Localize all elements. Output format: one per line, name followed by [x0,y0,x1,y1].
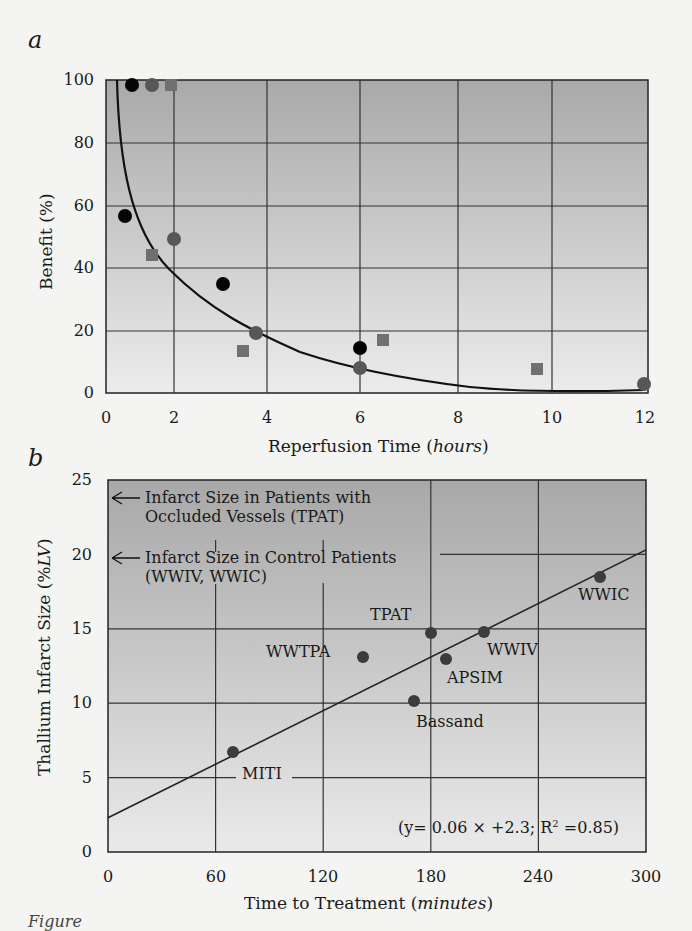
panel-a-ytick: 20 [54,321,94,340]
data-point-tpat [425,627,437,639]
annotation-line: Occluded Vessels (TPAT) [145,507,371,526]
data-point-miti [227,746,239,758]
label-apsim: APSIM [447,668,503,687]
label-tpat: TPAT [370,605,411,624]
panel-b-ylabel: Thallium Infarct Size (%LV) [34,538,54,776]
panel-a-ytick: 40 [54,258,94,277]
data-point [146,249,158,261]
panel-a-xtick: 0 [86,408,126,427]
panel-b-ytick: 15 [52,619,92,638]
panel-b-xlabel: Time to Treatment (minutes) [244,893,493,913]
data-point [216,277,230,291]
xlabel-unit: minutes [417,893,486,913]
annotation-control-reference: Infarct Size in Control Patients (WWIV, … [145,548,396,586]
data-point [145,78,159,92]
panel-a-plot [106,78,651,393]
panel-b-xtick: 60 [196,867,236,886]
panel-b-plot-area [108,480,646,852]
annotation-line: Infarct Size in Patients with [145,488,371,507]
panel-b-ytick: 25 [52,470,92,489]
equation-tail: =0.85) [559,818,619,837]
equation-text: (y= 0.06 × +2.3; R [398,818,552,837]
panel-b-plot [108,480,646,852]
data-point-wwtpa [357,651,369,663]
panel-b-xtick: 240 [518,867,558,886]
panel-a-ytick: 80 [54,133,94,152]
data-point [125,78,139,92]
ylabel-close: ) [34,538,54,545]
annotation-tpat-reference: Infarct Size in Patients with Occluded V… [145,488,371,526]
xlabel-close: ) [482,436,489,456]
panel-a-ytick: 0 [54,383,94,402]
data-point [249,326,263,340]
panel-a-xlabel: Reperfusion Time (hours) [268,436,489,456]
panel-b-ytick: 10 [52,693,92,712]
data-point [165,79,177,91]
panel-b-xtick: 120 [303,867,343,886]
panel-a-plot-area [106,80,648,393]
xlabel-unit: hours [433,436,482,456]
panel-b-ytick: 20 [52,545,92,564]
data-point [637,377,651,391]
label-wwiv: WWIV [487,640,538,659]
data-point [531,363,543,375]
label-miti: MITI [242,764,282,783]
figure-caption: Figure [28,912,82,931]
data-point [377,334,389,346]
regression-equation: (y= 0.06 × +2.3; R2 =0.85) [398,818,619,837]
xlabel-close: ) [486,893,493,913]
data-point [237,345,249,357]
panel-b-ytick: 0 [52,842,92,861]
data-point [353,341,367,355]
label-wwtpa: WWTPA [266,642,330,661]
panel-a-xtick: 8 [438,408,478,427]
data-point [353,361,367,375]
panel-b-xtick: 300 [626,867,666,886]
data-point-apsim [440,653,452,665]
xlabel-text: Time to Treatment ( [244,893,417,913]
annotation-line: Infarct Size in Control Patients [145,548,396,567]
data-point-bassand [408,695,420,707]
panel-a-xtick: 10 [532,408,572,427]
panel-a-xtick: 6 [340,408,380,427]
panel-a-ytick: 100 [54,70,94,89]
data-point-wwiv [478,626,490,638]
label-wwic: WWIC [578,585,629,604]
data-point-wwic [594,571,606,583]
panel-a-xtick: 2 [154,408,194,427]
xlabel-text: Reperfusion Time ( [268,436,433,456]
annotation-line: (WWIV, WWIC) [145,567,396,586]
panel-b-xtick: 0 [88,867,128,886]
panel-a-xtick: 12 [625,408,665,427]
ylabel-unit: LV [34,545,54,567]
panel-a-ylabel: Benefit (%) [36,193,56,290]
data-point [118,209,132,223]
panel-a-ytick: 60 [54,196,94,215]
panel-a-xtick: 4 [247,408,287,427]
panel-b-ytick: 5 [52,768,92,787]
label-bassand: Bassand [416,712,484,731]
panel-b-letter: b [28,444,43,472]
ylabel-text: Thallium Infarct Size (% [34,567,54,776]
data-point [167,232,181,246]
panel-b-xtick: 180 [411,867,451,886]
